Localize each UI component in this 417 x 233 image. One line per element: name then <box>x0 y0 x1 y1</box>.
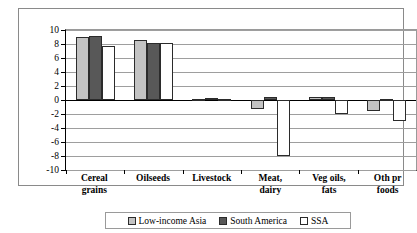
x-axis-label: Oilseeds <box>124 172 183 202</box>
y-tick-label: 6 <box>54 53 59 63</box>
chart-legend: Low-income AsiaSouth AmericaSSA <box>105 212 351 229</box>
y-tick-label: 4 <box>54 67 59 77</box>
y-tick-label: -10 <box>46 165 59 175</box>
chart-frame: 1086420-2-4-6-8-10 CerealgrainsOilseedsL… <box>18 8 404 186</box>
x-axis-label-line2: fats <box>300 185 359 197</box>
legend-label: South America <box>230 216 287 226</box>
bar-group <box>124 30 182 170</box>
bar <box>264 97 277 100</box>
bar-group <box>358 30 416 170</box>
y-tick-label: 0 <box>54 95 59 105</box>
plot-area: 1086420-2-4-6-8-10 <box>65 29 417 171</box>
bar-group <box>183 30 241 170</box>
x-axis-label: Meat,dairy <box>241 172 300 202</box>
bar <box>205 98 218 100</box>
bar <box>192 99 205 101</box>
legend-item[interactable]: South America <box>219 216 287 226</box>
x-axis-label-line1: Oth pr <box>374 173 402 183</box>
bar <box>277 100 290 156</box>
x-axis-label-line2: dairy <box>241 185 300 197</box>
x-axis-label: Oth prfoods <box>358 172 417 202</box>
bar <box>335 100 348 114</box>
bar <box>160 43 173 100</box>
x-axis-label-line1: Livestock <box>192 173 231 183</box>
x-axis-label: Livestock <box>182 172 241 202</box>
y-tick-label: 2 <box>54 81 59 91</box>
y-tick-label: 10 <box>50 25 60 35</box>
x-axis-label-line1: Oilseeds <box>136 173 170 183</box>
bar <box>89 36 102 100</box>
legend-label: SSA <box>311 216 328 226</box>
x-axis-label-line1: Veg oils, <box>312 173 345 183</box>
legend-item[interactable]: Low-income Asia <box>128 216 207 226</box>
x-axis-label-line2: grains <box>65 185 124 197</box>
y-tick-label: 8 <box>54 39 59 49</box>
x-axis-label: Cerealgrains <box>65 172 124 202</box>
bar <box>322 97 335 101</box>
legend-swatch-icon <box>300 217 308 225</box>
x-axis-label-line1: Cereal <box>81 173 108 183</box>
bar-groups <box>66 30 416 170</box>
x-axis-label-line1: Meat, <box>259 173 282 183</box>
bar <box>251 100 264 109</box>
bar <box>393 100 406 121</box>
bar <box>309 97 322 101</box>
legend-swatch-icon <box>219 217 227 225</box>
bar <box>147 43 160 100</box>
x-axis-label: Veg oils,fats <box>300 172 359 202</box>
legend-label: Low-income Asia <box>139 216 207 226</box>
bar <box>218 99 231 101</box>
y-tick-label: -6 <box>51 137 59 147</box>
y-tick-label: -8 <box>51 151 59 161</box>
bar <box>102 46 115 100</box>
bar <box>76 37 89 100</box>
bar <box>367 100 380 111</box>
bar-group <box>299 30 357 170</box>
bar <box>380 99 393 101</box>
y-tick-label: -2 <box>51 109 59 119</box>
y-tick-label: -4 <box>51 123 59 133</box>
bar-group <box>241 30 299 170</box>
legend-item[interactable]: SSA <box>300 216 328 226</box>
bar-group <box>66 30 124 170</box>
legend-swatch-icon <box>128 217 136 225</box>
bar <box>134 40 147 100</box>
x-axis-labels: CerealgrainsOilseedsLivestockMeat,dairyV… <box>65 172 417 202</box>
x-axis-label-line2: foods <box>358 185 417 197</box>
